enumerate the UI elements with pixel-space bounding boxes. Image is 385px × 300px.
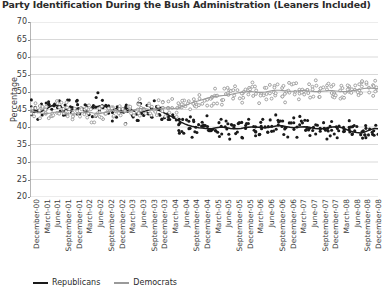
scatter-points-republicans [30, 91, 378, 141]
data-point [247, 118, 250, 121]
y-axis-tick-mark [28, 92, 31, 93]
x-axis-tick-label: September-04 [193, 199, 200, 251]
data-point [101, 99, 104, 102]
data-point [175, 115, 178, 118]
data-point [157, 99, 160, 102]
data-point [241, 136, 244, 139]
data-point [360, 85, 363, 88]
legend-item-republicans[interactable]: Republicans [33, 279, 100, 287]
y-axis-tick-label: 60 [17, 53, 27, 61]
data-point [100, 105, 103, 108]
legend-label: Republicans [52, 279, 100, 287]
data-point [177, 102, 180, 105]
y-axis-tick-label: 55 [17, 71, 27, 79]
data-point [30, 98, 33, 101]
legend-item-democrats[interactable]: Democrats [114, 279, 177, 287]
data-point [177, 129, 180, 132]
data-point [365, 81, 368, 84]
data-point [168, 111, 171, 114]
y-axis-tick-mark [28, 180, 31, 181]
data-point [62, 107, 65, 110]
data-point [314, 123, 317, 126]
data-point [268, 92, 271, 95]
data-point [129, 105, 132, 108]
data-point [161, 110, 164, 113]
data-point [255, 89, 258, 92]
x-axis-tick-label: September-06 [279, 199, 286, 251]
data-point [265, 98, 268, 101]
data-point [315, 84, 318, 87]
data-point [160, 118, 163, 121]
data-point [336, 136, 339, 139]
x-axis-tick-label: September-07 [322, 199, 329, 251]
data-point [332, 83, 335, 86]
data-point [258, 133, 261, 136]
x-axis-tick-label: March-08 [343, 199, 350, 234]
data-point [130, 112, 133, 115]
series-republicans [30, 91, 378, 141]
x-axis-tick-label: June-02 [97, 199, 104, 227]
x-axis-tick-labels: December-00March-01June-01September-01De… [30, 199, 378, 275]
data-point [232, 97, 235, 100]
data-point [259, 94, 262, 97]
data-point [372, 94, 375, 97]
data-point [341, 87, 344, 90]
x-axis-tick-label: March-03 [129, 199, 136, 234]
data-point [96, 91, 99, 94]
data-point [218, 135, 221, 138]
data-point [191, 136, 194, 139]
x-axis-tick-label: December-06 [290, 199, 297, 249]
data-point [223, 87, 226, 90]
data-point [79, 115, 82, 118]
data-point [50, 108, 53, 111]
x-axis-tick-label: December-03 [161, 199, 168, 249]
data-point [311, 88, 314, 91]
data-point [266, 131, 269, 134]
data-point [346, 88, 349, 91]
plot-area: 2025303540455055606570 [30, 22, 378, 197]
data-point [241, 101, 244, 104]
data-point [281, 95, 284, 98]
y-axis-tick-mark [28, 40, 31, 41]
data-point [265, 86, 268, 89]
data-point [268, 83, 271, 86]
data-point [225, 119, 228, 122]
data-point [236, 89, 239, 92]
data-point [327, 82, 330, 85]
data-point [193, 130, 196, 133]
data-point [137, 112, 140, 115]
data-point [368, 91, 371, 94]
data-point [39, 117, 42, 120]
data-point [374, 79, 377, 82]
data-point [201, 121, 204, 124]
x-axis-tick-label: December-02 [119, 199, 126, 249]
data-point [138, 103, 141, 106]
x-axis-tick-label: March-01 [44, 199, 51, 234]
y-axis-tick-label: 35 [17, 141, 27, 149]
data-point [350, 91, 353, 94]
data-point [201, 102, 204, 105]
data-point [111, 111, 114, 114]
data-point [251, 81, 254, 84]
legend-label: Democrats [133, 279, 177, 287]
data-point [330, 120, 333, 123]
data-point [226, 122, 229, 125]
data-point [161, 101, 164, 104]
data-point [181, 118, 184, 121]
data-point [198, 94, 201, 97]
data-point [351, 133, 354, 136]
data-point [329, 134, 332, 137]
data-point [361, 137, 364, 140]
data-point [293, 93, 296, 96]
data-point [354, 84, 357, 87]
data-point [228, 138, 231, 141]
data-point [249, 88, 252, 91]
data-point [274, 92, 277, 95]
data-point [292, 116, 295, 119]
data-point [73, 107, 76, 110]
data-point [282, 133, 285, 136]
chart-screenshot: Party Identification During the Bush Adm… [0, 0, 385, 300]
y-axis-label: Percentage [10, 70, 19, 130]
y-axis-tick-mark [28, 145, 31, 146]
x-axis-tick-label: September-01 [65, 199, 72, 251]
